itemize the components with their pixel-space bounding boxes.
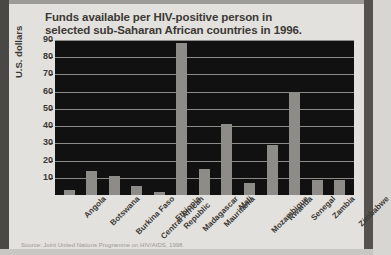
bar-senegal bbox=[289, 92, 300, 195]
y-tick-mark-50 bbox=[49, 109, 53, 110]
y-tick-mark-30 bbox=[49, 143, 53, 144]
y-tick-label-10: 10 bbox=[15, 172, 53, 182]
bar-rwanda bbox=[267, 145, 278, 195]
x-tick-label-mali: Mali bbox=[238, 195, 255, 212]
y-axis-ticks: 908070605040302010 bbox=[9, 40, 53, 195]
bar-slot bbox=[171, 40, 194, 195]
y-tick-label-50: 50 bbox=[15, 103, 53, 113]
y-tick-label-80: 80 bbox=[15, 51, 53, 61]
bar-slot bbox=[58, 40, 81, 195]
y-tick-mark-10 bbox=[49, 178, 53, 179]
bar-slot bbox=[81, 40, 104, 195]
y-tick-mark-60 bbox=[49, 92, 53, 93]
source-note: Source: Joint United Nations Programme o… bbox=[21, 242, 361, 249]
y-tick-mark-70 bbox=[49, 74, 53, 75]
bar-slot bbox=[261, 40, 284, 195]
y-tick-label-30: 30 bbox=[15, 137, 53, 147]
x-tick-label-zimbabwe: Zimbabwe bbox=[357, 195, 391, 229]
bar-mali bbox=[221, 124, 232, 195]
y-tick-label-70: 70 bbox=[15, 68, 53, 78]
plot-area bbox=[55, 40, 354, 195]
chart-panel: Funds available per HIV-positive person … bbox=[9, 4, 364, 249]
bar-madagascar bbox=[176, 43, 187, 195]
bar-series bbox=[55, 40, 354, 195]
chart-title: Funds available per HIV-positive person … bbox=[45, 11, 345, 37]
bar-slot bbox=[238, 40, 261, 195]
frame-left-edge bbox=[0, 0, 9, 255]
bar-slot bbox=[328, 40, 351, 195]
y-tick-mark-90 bbox=[49, 40, 53, 41]
bar-slot bbox=[216, 40, 239, 195]
bar-slot bbox=[306, 40, 329, 195]
bar-slot bbox=[103, 40, 126, 195]
bar-zambia bbox=[312, 180, 323, 196]
x-axis-labels: AngolaBotswanaBurkina FasoCentral Africa… bbox=[55, 195, 354, 245]
bar-central-african-republic bbox=[131, 186, 142, 195]
x-tick-label-botswana: Botswana bbox=[109, 195, 142, 228]
bar-burkina-faso bbox=[109, 176, 120, 195]
y-tick-mark-80 bbox=[49, 57, 53, 58]
bar-slot bbox=[193, 40, 216, 195]
bar-slot bbox=[283, 40, 306, 195]
bar-botswana bbox=[86, 171, 97, 195]
x-tick-label-angola: Angola bbox=[83, 195, 108, 220]
y-tick-label-60: 60 bbox=[15, 86, 53, 96]
chart-title-line-2: selected sub-Saharan African countries i… bbox=[45, 24, 345, 37]
bar-slot bbox=[126, 40, 149, 195]
frame-bottom-edge bbox=[0, 249, 373, 255]
y-tick-label-20: 20 bbox=[15, 155, 53, 165]
y-tick-mark-40 bbox=[49, 126, 53, 127]
y-tick-mark-20 bbox=[49, 161, 53, 162]
bar-slot bbox=[148, 40, 171, 195]
bar-mauritania bbox=[199, 169, 210, 195]
y-tick-label-40: 40 bbox=[15, 120, 53, 130]
y-tick-label-90: 90 bbox=[15, 34, 53, 44]
bar-zimbabwe bbox=[334, 180, 345, 196]
chart-title-line-1: Funds available per HIV-positive person … bbox=[45, 11, 345, 24]
